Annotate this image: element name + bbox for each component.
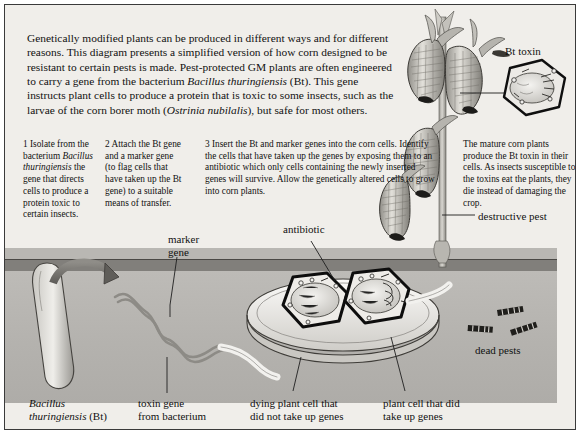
petri-dish <box>247 269 439 363</box>
label-bacillus: Bacillus thuringiensis (Bt) <box>29 397 107 423</box>
leader-dying-cell <box>293 357 301 391</box>
label-toxin-gene-line1: toxin gene <box>138 397 206 410</box>
label-transformed-cell: plant cell that did take up genes <box>383 397 460 423</box>
intro-text-c: ), but safe for most others. <box>248 104 368 116</box>
label-dying-cell-line2: did not take up genes <box>250 410 343 423</box>
transfer-arrow <box>53 262 119 284</box>
label-marker-gene-line2: gene <box>168 246 199 259</box>
diagram-page: Genetically modified plants can be produ… <box>0 0 584 442</box>
intro-species-1: Bacillus thuringiensis <box>187 75 287 87</box>
label-dead-pests: dead pests <box>475 344 521 357</box>
label-transformed-cell-line2: take up genes <box>383 410 460 423</box>
step-2-text: 2 Attach the Bt gene and a marker gene (… <box>105 139 183 209</box>
step-3-text: 3 Insert the Bt and marker genes into th… <box>205 139 435 198</box>
label-toxin-gene: toxin gene from bacterium <box>138 397 206 423</box>
gene-strand <box>115 294 223 362</box>
label-marker-gene-line1: marker <box>168 233 199 246</box>
corn-plant <box>380 9 510 267</box>
mature-plants-note: The mature corn plants produce the Bt to… <box>463 139 576 209</box>
label-dying-cell: dying plant cell that did not take up ge… <box>250 397 343 423</box>
label-antibiotic: antibiotic <box>283 223 325 236</box>
label-toxin-gene-line2: from bacterium <box>138 410 206 423</box>
label-bacillus-suffix: (Bt) <box>86 410 106 422</box>
label-dying-cell-line1: dying plant cell that <box>250 397 343 410</box>
label-marker-gene: marker gene <box>168 233 199 259</box>
label-transformed-cell-line1: plant cell that did <box>383 397 460 410</box>
label-bacillus-line2: thuringiensis (Bt) <box>29 410 107 423</box>
label-bt-toxin: Bt toxin <box>505 45 541 58</box>
intro-paragraph: Genetically modified plants can be produ… <box>27 31 399 117</box>
label-destructive-pest: destructive pest <box>478 210 547 223</box>
intro-species-2: Ostrinia nubilalis <box>167 104 248 116</box>
diagram-frame: Genetically modified plants can be produ… <box>4 4 576 430</box>
transfer-tube-left <box>221 347 277 377</box>
label-bacillus-line1: Bacillus <box>29 397 107 410</box>
label-bacillus-species: thuringiensis <box>29 410 86 422</box>
step-1-text: 1 Isolate from the bacterium Bacillus th… <box>23 139 101 221</box>
dead-pests-group <box>468 306 538 336</box>
leader-marker-gene <box>170 257 177 317</box>
